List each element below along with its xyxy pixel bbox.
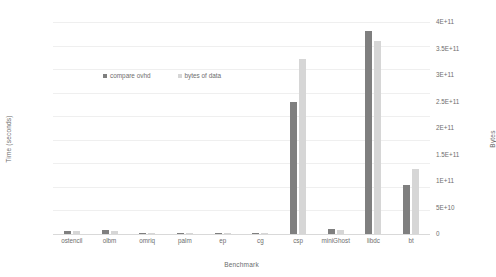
bar-group xyxy=(204,22,242,234)
bar-group xyxy=(91,22,129,234)
bar-bytes-of-data xyxy=(337,230,344,234)
bar-bytes-of-data xyxy=(148,233,155,234)
bar-compare-ovhd xyxy=(290,102,297,234)
bar-compare-ovhd xyxy=(139,233,146,234)
legend-label: bytes of data xyxy=(185,72,222,79)
x-axis-title: Benchmark xyxy=(0,261,483,268)
y-axis-right-title: Bytes xyxy=(489,130,496,147)
y-axis-right-tick-label: 3E+11 xyxy=(436,72,496,78)
x-axis-tick-label: bt xyxy=(392,238,430,244)
plot-inner: 0.0050.00100.00150.00200.00250.00300.003… xyxy=(53,22,430,234)
bar-bytes-of-data xyxy=(111,231,118,234)
bar-group xyxy=(279,22,317,234)
legend-item-compare-ovhd: compare ovhd xyxy=(103,72,151,79)
y-axis-right-tick-label: 3.5E+11 xyxy=(436,46,496,52)
y-axis-right-tick-label: 1.5E+11 xyxy=(436,152,496,158)
x-axis-tick-label: csp xyxy=(279,238,317,244)
x-axis-tick-label: ostencil xyxy=(53,238,91,244)
legend-label: compare ovhd xyxy=(110,72,151,79)
gridline xyxy=(53,234,430,235)
bar-bytes-of-data xyxy=(261,233,268,234)
bar-bytes-of-data xyxy=(186,233,193,234)
x-axis-tick-label: palm xyxy=(166,238,204,244)
legend-swatch-icon xyxy=(178,74,182,78)
y-axis-right-tick-label: 2E+11 xyxy=(436,125,496,131)
bar-compare-ovhd xyxy=(403,185,410,234)
x-axis-tick-label: libdc xyxy=(355,238,393,244)
y-axis-right-tick-label: 0 xyxy=(436,231,496,237)
bar-bytes-of-data xyxy=(224,233,231,234)
bar-group xyxy=(166,22,204,234)
legend-item-bytes-of-data: bytes of data xyxy=(178,72,222,79)
bar-group xyxy=(392,22,430,234)
bar-bytes-of-data xyxy=(412,169,419,234)
legend-swatch-icon xyxy=(103,74,107,78)
bar-compare-ovhd xyxy=(177,233,184,234)
x-axis-tick-label: omriq xyxy=(128,238,166,244)
bar-bytes-of-data xyxy=(73,231,80,234)
y-axis-left-title: Time (seconds) xyxy=(5,115,12,162)
bar-bytes-of-data xyxy=(299,59,306,234)
x-axis-tick-label: olbm xyxy=(91,238,129,244)
bar-group xyxy=(317,22,355,234)
y-axis-right-tick-label: 1E+11 xyxy=(436,178,496,184)
bar-compare-ovhd xyxy=(215,233,222,234)
plot-area: 0.0050.00100.00150.00200.00250.00300.003… xyxy=(53,22,430,234)
x-axis-tick-label: miniGhost xyxy=(317,238,355,244)
bar-group xyxy=(128,22,166,234)
bar-compare-ovhd xyxy=(64,231,71,234)
bar-compare-ovhd xyxy=(252,233,259,234)
chart-legend: compare ovhd bytes of data xyxy=(103,72,221,79)
y-axis-right-tick-label: 5E+10 xyxy=(436,205,496,211)
bar-compare-ovhd xyxy=(365,31,372,234)
bar-group xyxy=(242,22,280,234)
bar-group xyxy=(53,22,91,234)
bar-bytes-of-data xyxy=(374,41,381,234)
x-axis-tick-label: ep xyxy=(204,238,242,244)
y-axis-right-tick-label: 2.5E+11 xyxy=(436,99,496,105)
y-axis-right-tick-label: 4E+11 xyxy=(436,19,496,25)
bar-compare-ovhd xyxy=(102,230,109,234)
bar-compare-ovhd xyxy=(328,229,335,234)
x-axis-tick-label: cg xyxy=(242,238,280,244)
bar-group xyxy=(355,22,393,234)
